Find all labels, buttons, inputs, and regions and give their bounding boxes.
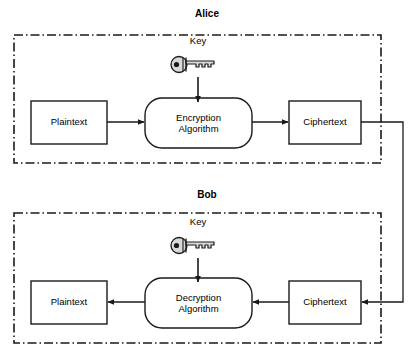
encryption-algorithm-label: Encryption Algorithm <box>145 112 252 134</box>
bob-ciphertext-label: Ciphertext <box>289 296 361 307</box>
alice-ciphertext-label: Ciphertext <box>289 116 361 127</box>
ciphertext-transmission-channel <box>361 122 403 302</box>
alice-section-label: Alice <box>0 8 414 19</box>
key-icon <box>171 57 214 73</box>
encryption-algorithm-label-line1: Encryption <box>176 112 221 123</box>
bob-section-label: Bob <box>0 189 414 200</box>
decryption-algorithm-label-line1: Decryption <box>176 292 221 303</box>
alice-key-label: Key <box>168 35 228 46</box>
decryption-algorithm-label-line2: Algorithm <box>178 303 218 314</box>
encryption-algorithm-label-line2: Algorithm <box>178 123 218 134</box>
bob-key-label: Key <box>168 216 228 227</box>
alice-plaintext-label: Plaintext <box>31 116 107 127</box>
decryption-algorithm-label: Decryption Algorithm <box>145 292 252 314</box>
bob-plaintext-label: Plaintext <box>31 296 107 307</box>
cryptography-diagram: Alice Key Plaintext Encryption Algorithm… <box>0 0 414 357</box>
key-icon <box>171 238 214 254</box>
